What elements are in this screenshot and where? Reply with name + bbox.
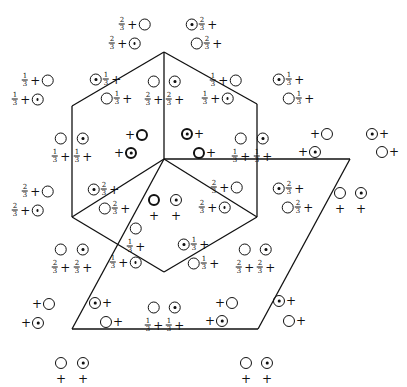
- coordinate-label: 13+: [188, 256, 221, 271]
- dotted-circle-icon: [31, 93, 43, 105]
- circle-icon: [191, 37, 203, 49]
- plus-sign: +: [120, 202, 130, 214]
- plus-sign: +: [262, 373, 272, 385]
- circle-icon: [193, 147, 205, 159]
- dotted-circle-icon: [32, 317, 44, 329]
- plus-sign: +: [262, 150, 272, 162]
- coordinate-label: +: [113, 147, 137, 159]
- coordinate-label: 23+: [282, 200, 315, 215]
- plus-sign: +: [294, 182, 304, 194]
- dotted-circle-icon: [128, 37, 140, 49]
- dotted-circle-icon: [355, 187, 367, 199]
- coordinate-label: 13+: [283, 91, 316, 106]
- plus-sign: +: [335, 203, 345, 215]
- coordinate-label: +: [124, 129, 148, 141]
- coordinate-label: 23+: [165, 76, 186, 107]
- plus-sign: +: [109, 183, 119, 195]
- circle-icon: [226, 297, 238, 309]
- fraction: 13: [191, 237, 197, 252]
- circle-icon: [136, 129, 148, 141]
- coordinate-label: +: [181, 128, 205, 140]
- coordinate-label: 13+: [21, 73, 54, 88]
- coordinate-label: +: [89, 297, 113, 309]
- coordinate-label: +: [55, 357, 67, 385]
- fraction: 23: [236, 260, 242, 275]
- plus-sign: +: [56, 373, 66, 385]
- circle-icon: [138, 18, 150, 30]
- fraction: 23: [204, 36, 210, 51]
- coordinate-label: 13+: [273, 72, 306, 87]
- dotted-circle-icon: [366, 128, 378, 140]
- coordinate-label: +: [193, 147, 217, 159]
- fraction: 23: [22, 184, 28, 199]
- fraction: 13: [127, 239, 133, 254]
- fraction: 23: [199, 200, 205, 215]
- plus-sign: +: [102, 297, 112, 309]
- circle-icon: [229, 74, 241, 86]
- coordinate-label: 13+: [178, 237, 211, 252]
- plus-sign: +: [114, 147, 124, 159]
- plus-sign: +: [113, 316, 123, 328]
- plus-sign: +: [111, 73, 121, 85]
- plus-sign: +: [207, 201, 217, 213]
- coordinate-label: +: [214, 297, 238, 309]
- coordinate-label: 23+: [118, 17, 151, 32]
- fraction: 23: [199, 17, 205, 32]
- coordinate-label: 13+: [126, 223, 147, 254]
- circle-icon: [55, 133, 67, 145]
- coordinate-label: +: [20, 317, 44, 329]
- plus-sign: +: [153, 319, 163, 331]
- plus-sign: +: [125, 129, 135, 141]
- coordinate-label: 23+: [210, 180, 243, 195]
- circle-icon: [55, 357, 67, 369]
- plus-sign: +: [286, 295, 296, 307]
- dotted-circle-icon: [89, 297, 101, 309]
- dotted-circle-icon: [261, 357, 273, 369]
- circle-icon: [376, 146, 388, 158]
- circle-icon: [239, 244, 251, 256]
- circle-icon: [240, 357, 252, 369]
- coordinate-label: 13+: [144, 302, 165, 333]
- fraction: 23: [101, 182, 107, 197]
- coordinate-label: 23+: [21, 184, 54, 199]
- fraction: 23: [12, 203, 18, 218]
- fraction: 13: [232, 149, 238, 164]
- circle-icon: [148, 194, 160, 206]
- circle-icon: [148, 302, 160, 314]
- circle-icon: [55, 244, 67, 256]
- dotted-circle-icon: [77, 244, 89, 256]
- plus-sign: +: [215, 297, 225, 309]
- coordinate-label: +: [240, 357, 252, 385]
- circle-icon: [41, 74, 53, 86]
- plus-sign: +: [218, 74, 228, 86]
- fraction: 13: [210, 73, 216, 88]
- plus-sign: +: [205, 315, 215, 327]
- fraction: 13: [103, 72, 109, 87]
- dotted-circle-icon: [273, 295, 285, 307]
- coordinate-label: 23+: [11, 203, 44, 218]
- plus-sign: +: [240, 150, 250, 162]
- coordinate-label: 23+: [235, 244, 256, 275]
- fraction: 23: [286, 181, 292, 196]
- coordinate-label: +: [283, 315, 307, 327]
- circle-icon: [100, 316, 112, 328]
- circle-icon: [230, 181, 242, 193]
- plus-sign: +: [194, 128, 204, 140]
- coordinate-label: 23+: [256, 244, 277, 275]
- plus-sign: +: [60, 150, 70, 162]
- plus-sign: +: [298, 146, 308, 158]
- circle-icon: [188, 257, 200, 269]
- plus-sign: +: [20, 204, 30, 216]
- fraction: 13: [166, 318, 172, 333]
- fraction: 13: [201, 256, 207, 271]
- plus-sign: +: [118, 256, 128, 268]
- coordinate-label: +: [170, 194, 182, 222]
- circle-icon: [43, 298, 55, 310]
- dotted-circle-icon: [181, 128, 193, 140]
- plus-sign: +: [174, 93, 184, 105]
- plus-sign: +: [78, 373, 88, 385]
- dotted-circle-icon: [273, 182, 285, 194]
- circle-icon: [99, 202, 111, 214]
- plus-sign: +: [30, 74, 40, 86]
- coordinate-label: +: [261, 357, 273, 385]
